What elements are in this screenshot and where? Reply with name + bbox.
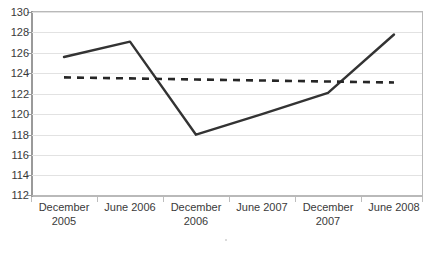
- plot-area: [32, 12, 422, 196]
- y-tick-label-128: 128: [3, 27, 29, 38]
- y-tick-label-120: 120: [3, 109, 29, 120]
- x-axis-tick-labels: December 2005 June 2006 December 2006 Ju…: [0, 200, 429, 240]
- gridline-116: [32, 155, 422, 156]
- x-tick-label-line2: 2005: [25, 214, 103, 228]
- gridline-126: [32, 53, 422, 54]
- gridline-124: [32, 73, 422, 74]
- page-speck: [225, 239, 227, 241]
- gridline-118: [32, 135, 422, 136]
- y-tick-label-124: 124: [3, 68, 29, 79]
- gridline-112-baseline: [32, 195, 422, 196]
- x-tick-label-line2: 2007: [289, 214, 367, 228]
- y-tick-label-118: 118: [3, 130, 29, 141]
- y-tick-label-116: 116: [3, 150, 29, 161]
- gridline-114: [32, 175, 422, 176]
- x-tick-label-line1: June 2008: [355, 200, 429, 214]
- y-tick-label-130: 130: [3, 7, 29, 18]
- y-tick-label-122: 122: [3, 89, 29, 100]
- x-tick-label-june-2008: June 2008: [355, 200, 429, 214]
- y-tick-label-126: 126: [3, 48, 29, 59]
- chart-figure: 130 128 126 124 122 120 118 116 114 112 …: [0, 0, 429, 255]
- gridline-128: [32, 32, 422, 33]
- gridline-130: [32, 12, 422, 13]
- y-tick-label-114: 114: [3, 170, 29, 181]
- gridline-120: [32, 114, 422, 115]
- x-tick-label-line2: 2006: [157, 214, 235, 228]
- gridline-122: [32, 94, 422, 95]
